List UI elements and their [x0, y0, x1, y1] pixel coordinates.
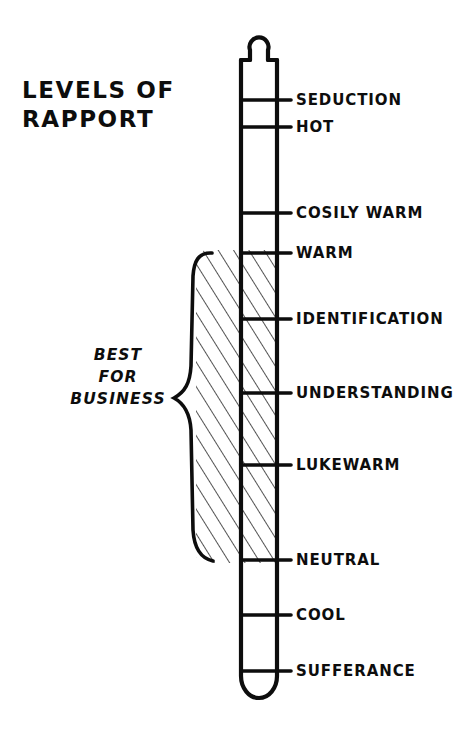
label-hot: HOT [296, 119, 334, 135]
page-title: LEVELS OF RAPPORT [22, 76, 222, 134]
annotation-line-2: FOR [58, 366, 178, 388]
page-title-line-1: LEVELS OF [22, 76, 222, 105]
annotation-line-1: BEST [58, 344, 178, 366]
best-for-business-annotation: BEST FOR BUSINESS [58, 344, 178, 410]
annotation-line-3: BUSINESS [58, 388, 178, 410]
label-cool: COOL [296, 607, 346, 623]
label-identification: IDENTIFICATION [296, 311, 444, 327]
levels-of-rapport-diagram: LEVELS OF RAPPORT BEST FOR BUSINESS SEDU… [0, 0, 475, 739]
label-lukewarm: LUKEWARM [296, 457, 400, 473]
label-cosily-warm: COSILY WARM [296, 205, 423, 221]
label-sufferance: SUFFERANCE [296, 663, 416, 679]
label-seduction: SEDUCTION [296, 92, 402, 108]
label-neutral: NEUTRAL [296, 552, 380, 568]
label-understanding: UNDERSTANDING [296, 385, 454, 401]
label-warm: WARM [296, 245, 354, 261]
best-for-business-hatch-region [190, 248, 284, 566]
page-title-line-2: RAPPORT [22, 105, 222, 134]
